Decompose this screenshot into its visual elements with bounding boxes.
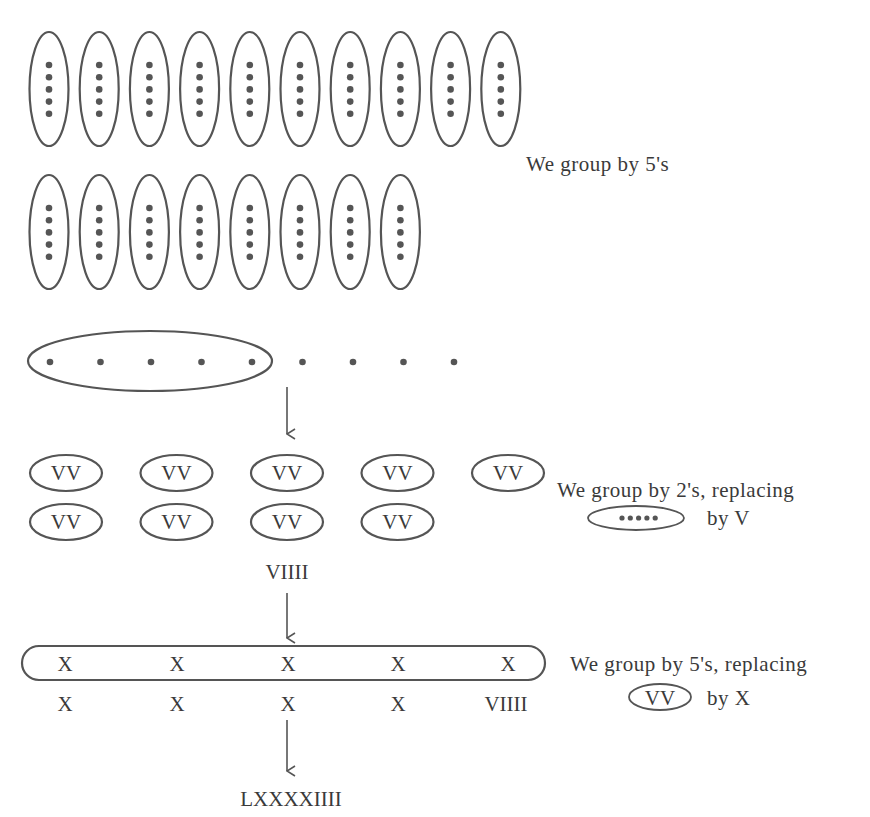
dot — [297, 62, 304, 69]
dot — [498, 74, 505, 81]
dot — [451, 359, 458, 366]
dot — [447, 74, 454, 81]
dot — [196, 241, 203, 248]
dot — [247, 86, 254, 93]
caption-group-by-5: We group by 5's — [526, 152, 669, 176]
dot — [146, 111, 153, 118]
dot — [146, 62, 153, 69]
dot — [196, 98, 203, 105]
dot — [196, 217, 203, 224]
dot — [397, 98, 404, 105]
circled-x: X — [57, 652, 72, 676]
result-numeral: LXXXXIIII — [240, 787, 341, 811]
dot — [297, 74, 304, 81]
dot — [397, 62, 404, 69]
circled-x: X — [390, 652, 405, 676]
dot — [146, 217, 153, 224]
five-dot-group — [130, 32, 169, 146]
dot — [46, 74, 53, 81]
dot — [146, 253, 153, 260]
dot — [196, 62, 203, 69]
five-dot-group — [180, 175, 219, 289]
dot — [96, 86, 103, 93]
dot — [447, 62, 454, 69]
dot — [247, 241, 254, 248]
dot — [447, 86, 454, 93]
dot — [297, 253, 304, 260]
dot — [397, 253, 404, 260]
vv-label: VV — [493, 461, 523, 485]
dot — [347, 98, 354, 105]
dot — [297, 217, 304, 224]
dot — [96, 241, 103, 248]
leftover-dots-row — [28, 331, 457, 391]
legend-vv-label: VV — [645, 686, 675, 710]
dot — [347, 241, 354, 248]
dot — [196, 205, 203, 212]
dot — [397, 74, 404, 81]
dot — [347, 74, 354, 81]
below-x-row: XXXXVIIII — [57, 692, 527, 716]
dot — [297, 86, 304, 93]
below-x: X — [169, 692, 184, 716]
dot — [447, 98, 454, 105]
vv-label: VV — [382, 510, 412, 534]
five-dot-group — [381, 32, 420, 146]
vv-group: VV — [141, 504, 213, 540]
dot — [46, 241, 53, 248]
five-dot-group — [230, 32, 269, 146]
dot — [196, 74, 203, 81]
dot — [96, 205, 103, 212]
dot — [146, 241, 153, 248]
roman-numeral-grouping-diagram: We group by 5's VVVVVVVVVV VVVVVVVV VIII… — [0, 0, 870, 817]
dot — [146, 74, 153, 81]
vv-label: VV — [161, 461, 191, 485]
dot — [247, 98, 254, 105]
vv-group: VV — [30, 455, 102, 491]
dot — [397, 86, 404, 93]
dot — [46, 86, 53, 93]
dot — [97, 359, 104, 366]
dot — [146, 205, 153, 212]
five-dot-group — [230, 175, 269, 289]
dot — [397, 229, 404, 236]
below-x: X — [280, 692, 295, 716]
dot — [247, 253, 254, 260]
dot — [46, 111, 53, 118]
dot — [347, 217, 354, 224]
five-dot-group — [281, 32, 320, 146]
dot — [96, 111, 103, 118]
dot — [347, 205, 354, 212]
five-dot-group — [180, 32, 219, 146]
dot — [297, 241, 304, 248]
dot — [247, 111, 254, 118]
dot — [96, 74, 103, 81]
dot — [347, 253, 354, 260]
dot — [644, 515, 649, 520]
vv-group: VV — [251, 504, 323, 540]
dot — [96, 62, 103, 69]
dot — [247, 229, 254, 236]
dot — [447, 111, 454, 118]
dot — [46, 217, 53, 224]
dot — [498, 62, 505, 69]
dot — [347, 86, 354, 93]
dot — [299, 359, 306, 366]
legend-five-dot-loop — [588, 506, 684, 530]
dot — [397, 205, 404, 212]
dot — [297, 229, 304, 236]
dot — [653, 515, 658, 520]
circled-x: X — [280, 652, 295, 676]
vv-label: VV — [272, 510, 302, 534]
five-dot-groups-row-2 — [30, 175, 420, 289]
dot — [196, 86, 203, 93]
dot — [46, 98, 53, 105]
five-dot-group — [281, 175, 320, 289]
vv-label: VV — [161, 510, 191, 534]
dot — [247, 205, 254, 212]
circled-x: X — [169, 652, 184, 676]
dot — [498, 98, 505, 105]
dot — [347, 111, 354, 118]
dot — [247, 74, 254, 81]
remainder-viiii: VIIII — [265, 560, 308, 584]
